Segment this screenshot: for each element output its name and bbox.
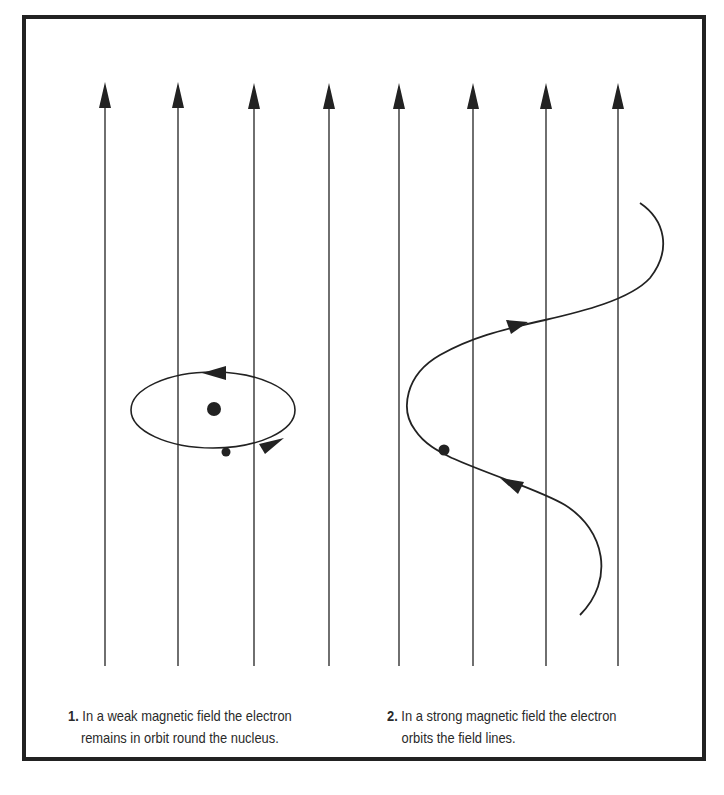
caption-number: 2. <box>387 707 398 724</box>
path-arrow-left-icon <box>500 478 524 494</box>
arrow-up-icon <box>323 83 335 109</box>
field-line-8 <box>612 83 624 666</box>
arrow-up-icon <box>393 83 405 109</box>
arrow-up-icon <box>467 83 479 109</box>
electron-dot <box>222 448 231 457</box>
caption-line-1: In a weak magnetic field the electron <box>82 707 291 724</box>
arrow-up-icon <box>248 83 260 109</box>
electron-dot <box>439 445 450 456</box>
field-line-1 <box>99 82 111 666</box>
nucleus <box>207 402 221 416</box>
field-line-7 <box>540 83 552 666</box>
arrow-up-icon <box>99 82 111 108</box>
field-line-5 <box>393 83 405 666</box>
caption-line-1: In a strong magnetic field the electron <box>401 707 616 724</box>
helical-path <box>407 203 663 615</box>
caption-panel-1: 1. In a weak magnetic field the electron… <box>68 705 292 749</box>
arrow-up-icon <box>172 82 184 108</box>
orbit-arrow-left-icon <box>202 366 226 380</box>
caption-number: 1. <box>68 707 79 724</box>
caption-line-2: orbits the field lines. <box>387 727 616 749</box>
caption-line-2: remains in orbit round the nucleus. <box>68 727 292 749</box>
magnetic-field-diagram <box>0 0 724 795</box>
panel-1-orbit <box>131 366 295 457</box>
field-line-3 <box>248 83 260 666</box>
arrow-up-icon <box>612 83 624 109</box>
panel-2-helix <box>407 203 663 615</box>
field-line-4 <box>323 83 335 666</box>
field-lines <box>99 82 624 666</box>
arrow-up-icon <box>540 83 552 109</box>
caption-panel-2: 2. In a strong magnetic field the electr… <box>387 705 616 749</box>
field-line-6 <box>467 83 479 666</box>
path-arrow-right-icon <box>506 320 528 334</box>
